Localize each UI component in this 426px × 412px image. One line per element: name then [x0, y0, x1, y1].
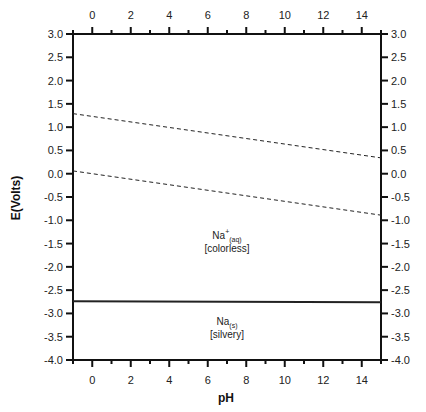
top-x-tick-label: 10 — [279, 9, 291, 21]
left-y-tick-label: 0.0 — [48, 168, 63, 180]
right-y-tick-label: -2.5 — [391, 284, 410, 296]
left-y-tick-label: -4.0 — [44, 354, 63, 366]
left-y-tick-label: -3.5 — [44, 331, 63, 343]
bottom-x-tick-label: 6 — [205, 374, 211, 386]
left-y-tick-label: 1.5 — [48, 98, 63, 110]
right-y-tick-label: -3.5 — [391, 331, 410, 343]
top-x-tick-label: 6 — [205, 9, 211, 21]
boundary-line — [73, 114, 381, 158]
right-y-tick-label: 2.5 — [391, 51, 406, 63]
boundary-line — [73, 171, 381, 215]
left-y-tick-label: 0.5 — [48, 144, 63, 156]
right-y-tick-label: -2.0 — [391, 261, 410, 273]
bottom-x-tick-label: 12 — [317, 374, 329, 386]
bottom-x-tick-label: 4 — [166, 374, 172, 386]
right-y-tick-label: -0.5 — [391, 191, 410, 203]
left-y-tick-label: -1.0 — [44, 214, 63, 226]
region-labels: Na+(aq)[colorless]Na(s)[silvery] — [204, 228, 249, 340]
left-y-tick-label: -1.5 — [44, 238, 63, 250]
top-x-tick-label: 2 — [128, 9, 134, 21]
right-y-tick-label: -4.0 — [391, 354, 410, 366]
right-y-tick-label: -1.0 — [391, 214, 410, 226]
right-y-tick-label: 1.0 — [391, 121, 406, 133]
left-y-tick-label: 2.5 — [48, 51, 63, 63]
bottom-x-tick-label: 0 — [89, 374, 95, 386]
plot-border — [73, 34, 381, 360]
x-axis-title: pH — [218, 391, 234, 405]
region-species-label: Na+(aq) — [212, 228, 241, 244]
left-y-tick-label: -2.5 — [44, 284, 63, 296]
boundary-line — [73, 301, 381, 302]
region-color-label: [silvery] — [210, 329, 244, 340]
y-axis-title: E(Volts) — [9, 176, 23, 220]
top-x-tick-label: 14 — [356, 9, 368, 21]
left-y-tick-label: 2.0 — [48, 75, 63, 87]
plot-frame — [73, 34, 381, 360]
pourbaix-diagram: 00224466881010121214143.03.02.52.52.02.0… — [0, 0, 426, 412]
bottom-x-tick-label: 14 — [356, 374, 368, 386]
right-y-tick-label: 0.0 — [391, 168, 406, 180]
right-y-tick-label: -1.5 — [391, 238, 410, 250]
right-y-tick-label: -3.0 — [391, 307, 410, 319]
right-y-tick-label: 1.5 — [391, 98, 406, 110]
left-y-tick-label: -2.0 — [44, 261, 63, 273]
left-y-tick-label: 1.0 — [48, 121, 63, 133]
right-y-tick-label: 2.0 — [391, 75, 406, 87]
top-x-tick-label: 12 — [317, 9, 329, 21]
bottom-x-tick-label: 10 — [279, 374, 291, 386]
boundary-lines — [73, 114, 381, 303]
left-y-tick-label: -0.5 — [44, 191, 63, 203]
left-y-tick-label: 3.0 — [48, 28, 63, 40]
region-species-label: Na(s) — [217, 316, 238, 330]
top-x-tick-label: 4 — [166, 9, 172, 21]
bottom-x-tick-label: 2 — [128, 374, 134, 386]
bottom-x-tick-label: 8 — [243, 374, 249, 386]
right-y-tick-label: 0.5 — [391, 144, 406, 156]
top-x-tick-label: 0 — [89, 9, 95, 21]
top-x-tick-label: 8 — [243, 9, 249, 21]
right-y-tick-label: 3.0 — [391, 28, 406, 40]
left-y-tick-label: -3.0 — [44, 307, 63, 319]
region-color-label: [colorless] — [204, 243, 249, 254]
